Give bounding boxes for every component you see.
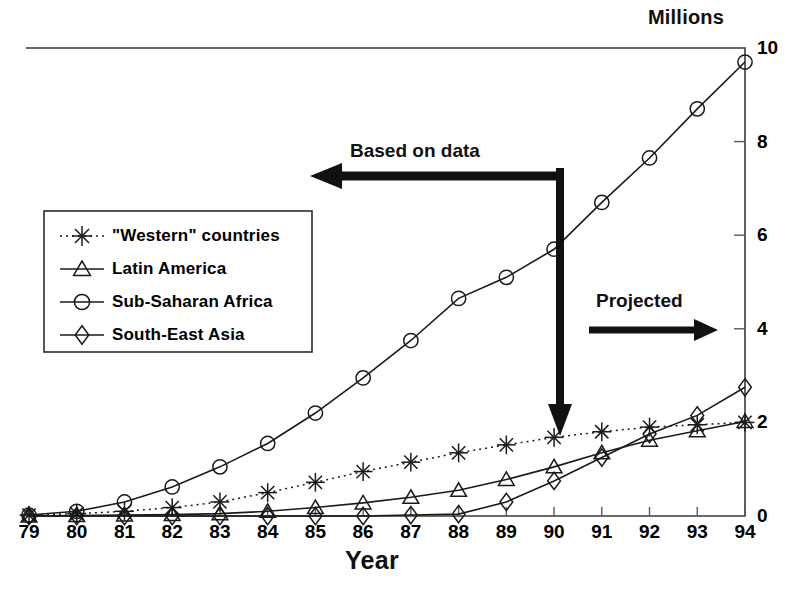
annotation-projected: Projected bbox=[596, 290, 683, 312]
x-tick-label: 87 bbox=[391, 521, 431, 543]
legend-entry-label: Sub-Saharan Africa bbox=[112, 292, 273, 312]
x-tick-label: 93 bbox=[677, 521, 717, 543]
x-tick-label: 86 bbox=[343, 521, 383, 543]
legend-entry-label: "Western" countries bbox=[112, 226, 280, 246]
x-tick-label: 88 bbox=[439, 521, 479, 543]
y-tick-label: 0 bbox=[757, 505, 768, 527]
x-tick-label: 84 bbox=[248, 521, 288, 543]
x-tick-label: 85 bbox=[295, 521, 335, 543]
x-tick-label: 79 bbox=[9, 521, 49, 543]
y-tick-label: 6 bbox=[757, 224, 768, 246]
y-tick-label: 10 bbox=[757, 37, 778, 59]
x-tick-label: 81 bbox=[104, 521, 144, 543]
x-axis-title: Year bbox=[345, 546, 399, 575]
x-tick-label: 92 bbox=[630, 521, 670, 543]
divider-arrow bbox=[548, 168, 572, 436]
based-on-data-arrow bbox=[310, 163, 558, 189]
y-tick-label: 8 bbox=[757, 131, 768, 153]
x-tick-label: 83 bbox=[200, 521, 240, 543]
y-axis-title: Millions bbox=[648, 6, 724, 29]
y-tick-label: 2 bbox=[757, 411, 768, 433]
legend-entry-label: South-East Asia bbox=[112, 325, 245, 345]
legend-entry-label: Latin America bbox=[112, 259, 226, 279]
series-0 bbox=[20, 413, 755, 524]
y-tick-label: 4 bbox=[757, 318, 768, 340]
x-tick-label: 91 bbox=[582, 521, 622, 543]
x-tick-label: 89 bbox=[486, 521, 526, 543]
chart-canvas: Millions Year Based on data Projected 79… bbox=[0, 0, 791, 591]
x-tick-label: 90 bbox=[534, 521, 574, 543]
x-tick-label: 80 bbox=[57, 521, 97, 543]
projected-arrow bbox=[589, 319, 718, 341]
annotation-based-on-data: Based on data bbox=[350, 140, 480, 162]
x-tick-label: 82 bbox=[152, 521, 192, 543]
